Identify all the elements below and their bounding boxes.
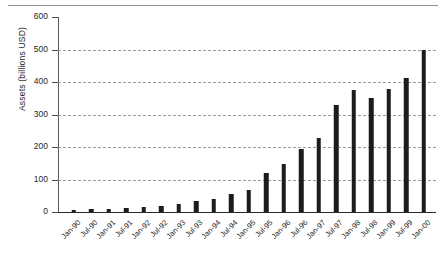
bar: [142, 207, 147, 212]
gridline-200: [58, 147, 436, 148]
bar: [159, 206, 164, 213]
bar: [229, 194, 234, 212]
bar: [89, 209, 94, 212]
bar: [352, 90, 357, 212]
bar: [299, 149, 304, 212]
gridline-0: [58, 212, 436, 213]
y-tick-label-600: 600: [10, 11, 48, 21]
bar: [404, 78, 409, 212]
bar: [177, 204, 182, 212]
y-tick-label-500: 500: [10, 44, 48, 54]
bar: [317, 138, 322, 212]
bar: [72, 210, 77, 212]
bar: [387, 89, 392, 212]
bar: [282, 164, 287, 212]
bar: [422, 50, 427, 213]
chart-figure: Assets (billions USD) 010020030040050060…: [0, 0, 443, 261]
x-axis-labels: Jan-90Jul-90Jan-91Jul-91Jan-92Jul-92Jan-…: [58, 214, 436, 260]
gridline-400: [58, 82, 436, 83]
gridline-500: [58, 50, 436, 51]
bar: [247, 190, 252, 212]
y-tick-label-300: 300: [10, 109, 48, 119]
bar: [124, 208, 129, 212]
y-tick-label-200: 200: [10, 141, 48, 151]
bar: [194, 201, 199, 212]
bar: [369, 98, 374, 212]
y-tick-label-400: 400: [10, 76, 48, 86]
bar: [334, 105, 339, 212]
plot-area: [58, 17, 436, 212]
y-tick-label-0: 0: [10, 206, 48, 216]
bar: [107, 209, 112, 212]
bar: [264, 173, 269, 212]
top-divider: [8, 5, 438, 6]
y-tick-label-100: 100: [10, 174, 48, 184]
bar: [212, 199, 217, 212]
gridline-100: [58, 180, 436, 181]
gridline-300: [58, 115, 436, 116]
